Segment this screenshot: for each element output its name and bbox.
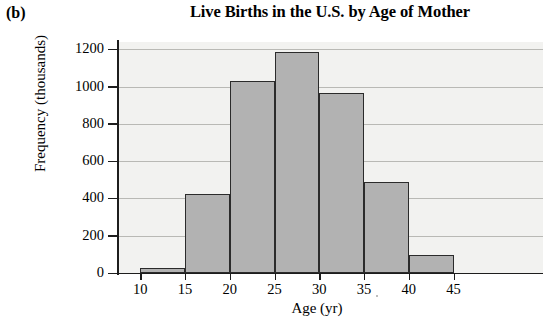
histogram-bar-15-20 xyxy=(185,194,230,273)
histogram-bar-40-45 xyxy=(409,255,454,273)
x-tick-label: 35 xyxy=(344,281,384,298)
y-tick-label: 1200 xyxy=(75,40,104,57)
x-tick-15 xyxy=(185,273,186,280)
y-axis-title: Frequency (thousands) xyxy=(32,4,49,204)
y-tick-label: 400 xyxy=(82,189,104,206)
plot-area xyxy=(118,42,543,273)
x-tick-10 xyxy=(140,273,141,280)
y-tick-400 xyxy=(108,198,118,199)
x-tick-label: 15 xyxy=(165,281,205,298)
x-tick-35 xyxy=(364,273,365,280)
gridline-1000 xyxy=(118,87,543,88)
x-tick-25 xyxy=(275,273,276,280)
x-tick-30 xyxy=(319,273,320,280)
x-tick-label: 45 xyxy=(434,281,474,298)
x-tick-label: 30 xyxy=(299,281,339,298)
y-tick-label: 600 xyxy=(82,152,104,169)
x-tick-label: 25 xyxy=(255,281,295,298)
x-tick-40 xyxy=(409,273,410,280)
y-tick-200 xyxy=(108,235,118,236)
x-axis-title: Age (yr) xyxy=(117,300,517,317)
y-tick-800 xyxy=(108,123,118,124)
histogram-bar-30-35 xyxy=(319,93,364,273)
y-tick-label: 1000 xyxy=(75,78,104,95)
y-tick-0 xyxy=(108,273,118,274)
x-tick-label: 20 xyxy=(210,281,250,298)
x-tick-20 xyxy=(230,273,231,280)
panel-label: (b) xyxy=(6,4,26,22)
y-tick-1000 xyxy=(108,86,118,87)
y-axis-line xyxy=(117,40,119,275)
chart-title: Live Births in the U.S. by Age of Mother xyxy=(120,2,540,22)
y-tick-label: 800 xyxy=(82,115,104,132)
x-tick-label: 40 xyxy=(389,281,429,298)
y-tick-600 xyxy=(108,161,118,162)
histogram-bar-25-30 xyxy=(275,52,320,273)
y-tick-label: 200 xyxy=(82,227,104,244)
histogram-bar-35-40 xyxy=(364,182,409,273)
gridline-1200 xyxy=(118,49,543,50)
histogram-bar-20-25 xyxy=(230,81,275,273)
x-axis-line xyxy=(108,273,543,275)
x-tick-label: 10 xyxy=(120,281,160,298)
y-tick-1200 xyxy=(108,49,118,50)
x-tick-45 xyxy=(454,273,455,280)
y-tick-label: 0 xyxy=(97,264,104,281)
figure-histogram-live-births: (b) Live Births in the U.S. by Age of Mo… xyxy=(0,0,543,324)
